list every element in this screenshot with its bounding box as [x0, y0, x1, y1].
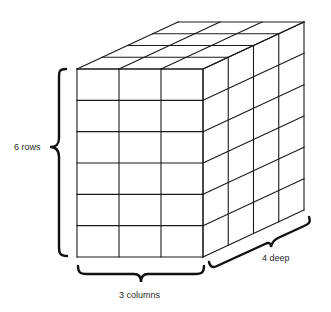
columns-label: 3 columns — [119, 291, 160, 300]
rows-label: 6 rows — [14, 143, 41, 152]
depth-label: 4 deep — [262, 254, 290, 263]
rows-brace — [50, 69, 67, 256]
columns-brace — [78, 266, 204, 282]
cube-prism — [0, 0, 331, 312]
diagram-canvas: 6 rows 3 columns 4 deep — [0, 0, 331, 312]
